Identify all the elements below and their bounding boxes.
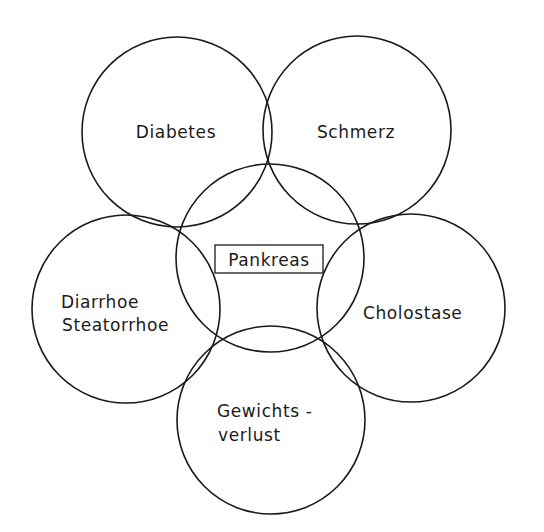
label-pankreas: Pankreas bbox=[228, 250, 310, 270]
pancreas-symptom-diagram: Diabetes Schmerz Cholostase Gewichts - v… bbox=[0, 0, 544, 532]
label-schmerz: Schmerz bbox=[317, 122, 395, 142]
label-gewichtsverlust-line1: Gewichts - bbox=[217, 401, 312, 421]
label-diabetes: Diabetes bbox=[136, 122, 216, 142]
label-cholostase: Cholostase bbox=[363, 303, 462, 323]
label-diarrhoe: Diarrhoe bbox=[61, 292, 139, 312]
label-gewichtsverlust-line2: verlust bbox=[218, 425, 281, 445]
label-steatorrhoe: Steatorrhoe bbox=[62, 315, 169, 335]
